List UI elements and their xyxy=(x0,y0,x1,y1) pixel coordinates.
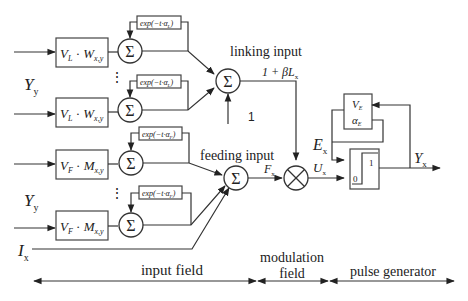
feeding-input-label: feeding input xyxy=(200,148,274,163)
threshold-label: Ex xyxy=(312,136,328,156)
linking-decay-block-1: exp(−t·αL) xyxy=(137,16,181,29)
svg-text:Σ: Σ xyxy=(125,102,134,119)
linking-input-label: linking input xyxy=(230,44,302,59)
modulation-output-label: Ux xyxy=(313,160,326,177)
feeding-sum-2: Σ xyxy=(119,213,143,237)
feeding-output-label: Fx xyxy=(263,162,275,178)
linking-output-label: 1 + βLx xyxy=(262,65,299,81)
svg-text:Σ: Σ xyxy=(223,73,232,90)
pulse-output-label: Yx xyxy=(414,150,427,169)
threshold-params-block: VE αE xyxy=(344,94,372,129)
input-field-label: input field xyxy=(141,262,204,278)
feeding-weight-block-2: VF · Mx,y xyxy=(56,211,108,240)
svg-text:Σ: Σ xyxy=(126,217,135,234)
feeding-weight-block-1: VF · Mx,y xyxy=(56,150,108,179)
linking-input-sum: Σ xyxy=(216,69,240,93)
svg-text:Σ: Σ xyxy=(125,43,134,60)
step-function-block: 1 0 xyxy=(350,149,379,189)
modulation-field-label-line1: modulation xyxy=(260,250,324,265)
svg-text:0: 0 xyxy=(353,174,358,184)
linking-sum-1: Σ xyxy=(118,39,142,63)
feeding-input-symbol: Yy xyxy=(24,191,38,213)
bias-value: 1 xyxy=(248,110,255,124)
modulation-multiplier xyxy=(284,166,308,190)
pcnn-neuron-diagram: VL · Wx,y VL · Wx,y Σ Σ exp(−t·αL) exp(−… xyxy=(0,0,468,301)
linking-weight-block-1: VL · Wx,y xyxy=(56,38,108,67)
feeding-decay-block-1: exp(−t·αF) xyxy=(139,127,182,140)
linking-weight-block-2: VL · Wx,y xyxy=(56,98,108,127)
svg-text:1: 1 xyxy=(369,158,374,168)
linking-decay-block-2: exp(−t·αL) xyxy=(137,75,181,88)
linking-ellipsis: ⋮ xyxy=(110,70,124,85)
pulse-generator-label: pulse generator xyxy=(350,264,436,279)
external-input-symbol: Ix xyxy=(17,241,29,263)
modulation-field-label-line2: field xyxy=(279,266,305,281)
linking-sum-2: Σ xyxy=(118,98,142,122)
feeding-input-sum: Σ xyxy=(224,166,248,190)
svg-text:Σ: Σ xyxy=(231,170,240,187)
linking-input-symbol: Yy xyxy=(24,75,38,97)
svg-text:Σ: Σ xyxy=(126,155,135,172)
feeding-decay-block-2: exp(−t·αF) xyxy=(139,186,182,199)
feeding-sum-1: Σ xyxy=(119,151,143,175)
feeding-ellipsis: ⋮ xyxy=(110,186,124,201)
